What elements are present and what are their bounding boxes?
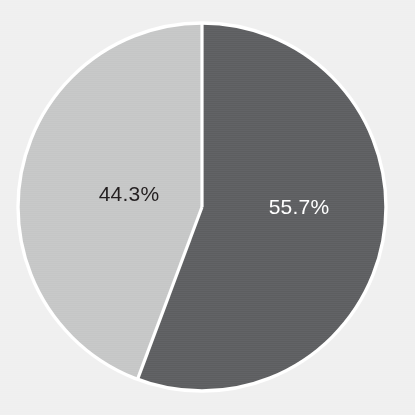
pie-chart-canvas — [0, 0, 415, 415]
pie-slice-label-light: 44.3% — [99, 182, 160, 206]
pie-chart-figure: 55.7% 44.3% — [0, 0, 415, 415]
pie-slice-label-dark: 55.7% — [269, 195, 330, 219]
